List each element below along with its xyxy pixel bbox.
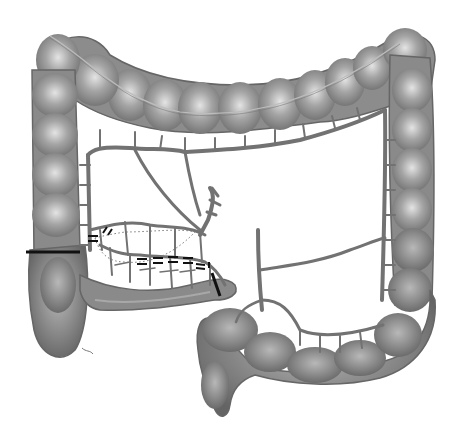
descending-colon — [388, 55, 434, 312]
terminal-ileum — [80, 275, 236, 310]
transverse-colon — [36, 28, 435, 134]
cecum — [29, 245, 93, 357]
colon-illustration — [0, 0, 458, 437]
colon-diagram — [0, 0, 458, 437]
ascending-colon — [32, 70, 80, 255]
